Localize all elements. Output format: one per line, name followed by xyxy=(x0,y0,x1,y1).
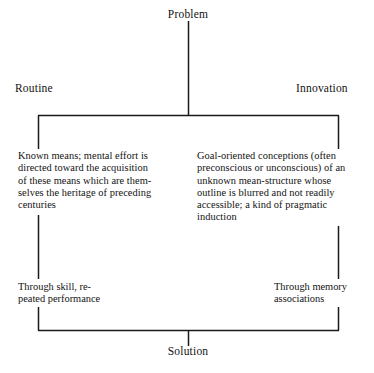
description-line: selves the heritage of preceding xyxy=(18,187,181,199)
description-line: directed toward the acquisition xyxy=(18,162,181,174)
description-line: preconscious or unconscious) of an xyxy=(197,162,358,174)
description-line: Known means; mental effort is xyxy=(18,150,181,162)
branch-outcome-innovation: Through memory associations xyxy=(274,281,360,306)
branch-heading-routine: Routine xyxy=(15,82,53,95)
description-line: outline is blurred and not readily xyxy=(197,187,358,199)
outcome-line: associations xyxy=(274,293,360,305)
description-line: accessible; a kind of pragmatic xyxy=(197,199,358,211)
branch-outcome-routine: Through skill, re- peated performance xyxy=(18,281,148,306)
node-solution: Solution xyxy=(0,345,374,358)
flow-diagram: Problem Routine Innovation Known means; … xyxy=(0,0,374,373)
outcome-line: peated performance xyxy=(18,293,148,305)
branch-description-innovation: Goal-oriented conceptions (often precons… xyxy=(197,150,358,224)
branch-description-routine: Known means; mental effort is directed t… xyxy=(18,150,181,211)
node-problem: Problem xyxy=(0,8,374,21)
description-line: of these means which are them- xyxy=(18,175,181,187)
node-problem-label: Problem xyxy=(168,8,208,20)
outcome-line: Through memory xyxy=(274,281,360,293)
description-line: Goal-oriented conceptions (often xyxy=(197,150,358,162)
node-solution-label: Solution xyxy=(168,345,209,357)
description-line: induction xyxy=(197,211,358,223)
branch-heading-innovation: Innovation xyxy=(296,82,348,95)
outcome-line: Through skill, re- xyxy=(18,281,148,293)
description-line: unknown mean-structure whose xyxy=(197,175,358,187)
description-line: centuries xyxy=(18,199,181,211)
